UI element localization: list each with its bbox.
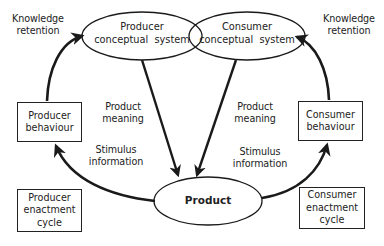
right-meaning-line1: Product <box>230 101 280 113</box>
right-stimulus-line2: information <box>230 158 290 170</box>
consumer-behaviour-line2: behaviour <box>306 121 355 134</box>
right-knowledge-retention-arrow <box>297 37 329 100</box>
left-knowledge-retention-label: Knowledge retention <box>8 13 68 37</box>
consumer-behaviour-box: Consumer behaviour <box>298 101 363 141</box>
producer-enactment-line2: enactment <box>24 204 76 217</box>
left-stimulus-information-label: Stimulus information <box>86 144 146 168</box>
consumer-enactment-line3: cycle <box>306 214 358 227</box>
producer-behaviour-box: Producer behaviour <box>17 102 82 142</box>
consumer-enactment-line2: enactment <box>306 202 358 215</box>
producer-enactment-cycle-box: Producer enactment cycle <box>17 189 82 232</box>
left-knowledge-retention-arrow <box>47 36 82 101</box>
consumer-conceptual-line2: conceptual system <box>190 34 304 47</box>
left-stimulus-line1: Stimulus <box>86 144 146 156</box>
right-knowledge-line2: retention <box>318 25 380 37</box>
left-meaning-line1: Product <box>98 101 148 113</box>
right-knowledge-retention-label: Knowledge retention <box>318 13 380 37</box>
right-meaning-line2: meaning <box>230 113 280 125</box>
consumer-enactment-cycle-box: Consumer enactment cycle <box>299 187 365 229</box>
left-meaning-line2: meaning <box>98 113 148 125</box>
consumer-behaviour-line1: Consumer <box>306 109 355 122</box>
consumer-enactment-line1: Consumer <box>306 189 358 202</box>
consumer-conceptual-line1: Consumer <box>190 21 304 34</box>
producer-conceptual-line1: Producer <box>86 21 198 34</box>
right-knowledge-line1: Knowledge <box>318 13 380 25</box>
left-knowledge-line2: retention <box>8 25 68 37</box>
right-product-meaning-label: Product meaning <box>230 101 280 125</box>
producer-behaviour-line2: behaviour <box>25 122 73 135</box>
right-stimulus-line1: Stimulus <box>230 146 290 158</box>
product-text: Product <box>185 194 231 206</box>
producer-enactment-line3: cycle <box>24 217 76 230</box>
product-label: Product <box>158 194 258 206</box>
left-knowledge-line1: Knowledge <box>8 13 68 25</box>
producer-conceptual-line2: conceptual system <box>86 34 198 47</box>
right-stimulus-information-label: Stimulus information <box>230 146 290 170</box>
left-stimulus-line2: information <box>86 156 146 168</box>
producer-conceptual-system-label: Producer conceptual system <box>86 21 198 46</box>
left-product-meaning-label: Product meaning <box>98 101 148 125</box>
producer-behaviour-line1: Producer <box>25 110 73 123</box>
producer-enactment-line1: Producer <box>24 192 76 205</box>
consumer-conceptual-system-label: Consumer conceptual system <box>190 21 304 46</box>
